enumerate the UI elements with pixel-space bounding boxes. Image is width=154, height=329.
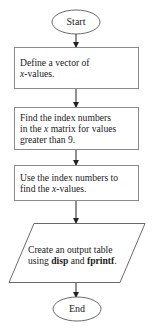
output-cmd-disp: disp [51, 255, 68, 266]
output-cmd-fprintf: fprintf [87, 255, 114, 266]
step3-line2-pre: find the [20, 183, 52, 194]
step1-line2: x-values. [20, 68, 136, 79]
step1-line1: Define a vector of [20, 57, 136, 68]
output-line2-end: . [114, 255, 116, 266]
output-line1: Create an output table [28, 244, 138, 255]
step3-line1: Use the index numbers to [20, 172, 140, 183]
output-text: Create an output table using disp and fp… [28, 244, 138, 266]
step2-text: Find the index numbers in the x matrix f… [20, 112, 138, 145]
step3-text: Use the index numbers to find the x-valu… [20, 172, 140, 194]
step1-text: Define a vector of x-values. [20, 57, 136, 79]
start-label: Start [52, 16, 100, 27]
step2-line2: in the x matrix for values [20, 123, 138, 134]
step2-line1: Find the index numbers [20, 112, 138, 123]
step3-line2: find the x-values. [20, 183, 140, 194]
step3-line2-post: -values. [56, 183, 86, 194]
end-label: End [53, 303, 101, 314]
flowchart-canvas [0, 0, 154, 329]
step2-line2-post: matrix for values [48, 123, 116, 134]
step2-line3: greater than 9. [20, 134, 138, 145]
output-line2-mid: and [68, 255, 87, 266]
output-line2-pre: using [28, 255, 51, 266]
step2-line2-pre: in the [20, 123, 44, 134]
output-line2: using disp and fprintf. [28, 255, 138, 266]
step1-line2-rest: -values. [24, 68, 54, 79]
